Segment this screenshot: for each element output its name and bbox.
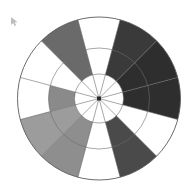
wedge-s12[interactable] [41, 20, 92, 81]
chart-canvas [0, 0, 195, 188]
polar-wedge-chart[interactable] [0, 0, 195, 188]
wedge-s6[interactable] [105, 116, 156, 177]
center-marker [97, 97, 101, 101]
center-dot [97, 97, 101, 101]
